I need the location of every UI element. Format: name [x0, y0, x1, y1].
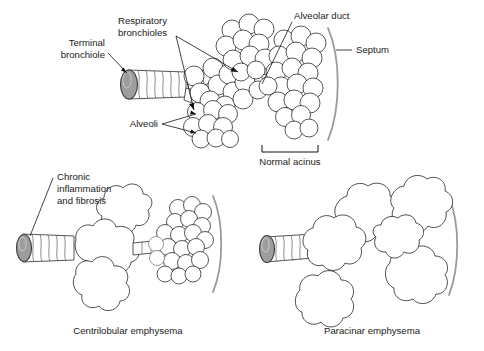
leader-chronic-inflammation	[30, 178, 53, 236]
alveolar-cluster-centrilobular-periphery	[149, 197, 214, 285]
terminal-bronchiole-tube	[121, 70, 187, 99]
caption-paracinar: Paracinar emphysema	[324, 325, 421, 336]
normal-acinus-bracket	[262, 145, 318, 152]
label-terminal-bronchiole-line2: bronchiole	[61, 49, 105, 60]
alveolar-cluster-lower-left	[184, 101, 239, 149]
label-chronic-line2: inflammation	[57, 183, 111, 194]
label-septum: Septum	[356, 44, 389, 55]
caption-centrilobular: Centrilobular emphysema	[73, 325, 183, 336]
septum-arc-centrilobular	[213, 196, 221, 292]
label-chronic-line1: Chronic	[57, 171, 90, 182]
centrilobular-bronchiole-tube	[17, 234, 75, 262]
figure-canvas: Terminal bronchiole Respiratory bronchio…	[0, 0, 484, 351]
label-alveoli: Alveoli	[130, 118, 158, 129]
label-respiratory-bronchioles-line1: Respiratory	[118, 15, 167, 26]
anatomy-figure: Terminal bronchiole Respiratory bronchio…	[0, 0, 484, 351]
label-respiratory-bronchioles-line2: bronchioles	[118, 27, 167, 38]
label-terminal-bronchiole-line1: Terminal	[69, 37, 105, 48]
label-chronic-line3: and fibrosis	[57, 195, 106, 206]
bronchiole-lumen-cap	[121, 70, 138, 99]
paracinar-airspace-lower-left	[295, 271, 353, 327]
septum-arc-paracinar	[449, 197, 457, 295]
label-alveolar-duct: Alveolar duct	[294, 10, 350, 21]
panel-normal-acinus: Terminal bronchiole Respiratory bronchio…	[61, 10, 389, 167]
panel-paracinar-emphysema: Paracinar emphysema	[260, 175, 458, 336]
label-normal-acinus: Normal acinus	[259, 156, 321, 167]
panel-centrilobular-emphysema: Chronic inflammation and fibrosis Centri…	[17, 171, 222, 336]
septum-arc	[328, 28, 338, 140]
